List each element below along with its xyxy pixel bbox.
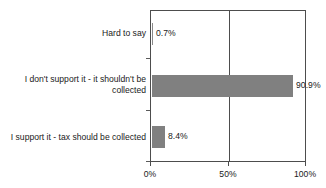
x-axis-label-0: 0%	[140, 169, 160, 179]
x-axis-tick-100	[305, 162, 306, 166]
category-label-1: I don't support it - it shouldn't be col…	[4, 72, 146, 98]
bar-chart: Hard to say I don't support it - it shou…	[0, 0, 326, 188]
bar-support	[152, 126, 165, 148]
bar-hard-to-say	[152, 23, 153, 45]
value-label-support: 8.4%	[168, 131, 188, 141]
category-label-text: I support it - tax should be collected	[11, 132, 146, 143]
x-axis-label-50: 50%	[214, 169, 242, 179]
category-label-0: Hard to say	[4, 22, 146, 44]
category-label-text: I don't support it - it shouldn't be col…	[4, 74, 146, 95]
value-label-do-not-support: 90.9%	[296, 80, 321, 90]
category-label-text: Hard to say	[102, 28, 146, 39]
value-label-hard-to-say: 0.7%	[156, 28, 176, 38]
bar-do-not-support	[152, 75, 293, 97]
x-axis-tick-0	[150, 162, 151, 166]
x-axis-tick-50	[228, 162, 229, 166]
x-axis-label-100: 100%	[289, 169, 321, 179]
category-label-2: I support it - tax should be collected	[4, 124, 146, 150]
